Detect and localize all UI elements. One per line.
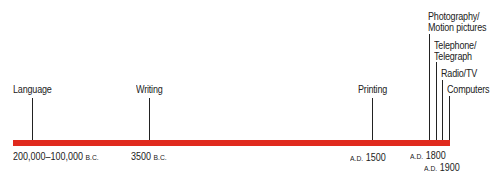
timeline-bar bbox=[13, 140, 450, 146]
event-radio-tv-label: Radio/TV bbox=[441, 68, 477, 80]
event-telephone-label-line2: Telegraph bbox=[434, 51, 472, 63]
date-value: 1800 bbox=[426, 150, 446, 161]
event-writing-label: Writing bbox=[136, 84, 163, 96]
date-1900: A.D. 1900 bbox=[424, 162, 460, 175]
event-language-tick bbox=[32, 98, 33, 140]
date-era: B.C. bbox=[86, 153, 99, 162]
date-value: 200,000–100,000 bbox=[13, 151, 83, 162]
date-value: 3500 bbox=[131, 151, 151, 162]
event-radio-tv-tick bbox=[442, 80, 443, 140]
date-printing: A.D. 1500 bbox=[350, 152, 386, 165]
event-telephone-tick bbox=[436, 62, 437, 140]
date-era: A.D. bbox=[410, 152, 423, 161]
event-printing-label: Printing bbox=[358, 84, 387, 96]
event-photography-tick bbox=[429, 34, 430, 140]
date-value: 1500 bbox=[366, 152, 386, 163]
date-writing: 3500 B.C. bbox=[131, 151, 167, 164]
event-writing-tick bbox=[149, 98, 150, 140]
date-era: A.D. bbox=[424, 164, 437, 173]
event-computers-tick bbox=[449, 96, 450, 140]
event-photography-label-line2: Motion pictures bbox=[428, 22, 486, 34]
event-printing-tick bbox=[372, 98, 373, 140]
date-language: 200,000–100,000 B.C. bbox=[13, 151, 99, 164]
date-era: A.D. bbox=[350, 154, 363, 163]
event-computers-label: Computers bbox=[447, 84, 489, 96]
date-era: B.C. bbox=[154, 153, 167, 162]
date-value: 1900 bbox=[440, 162, 460, 173]
event-language-label: Language bbox=[13, 84, 52, 96]
